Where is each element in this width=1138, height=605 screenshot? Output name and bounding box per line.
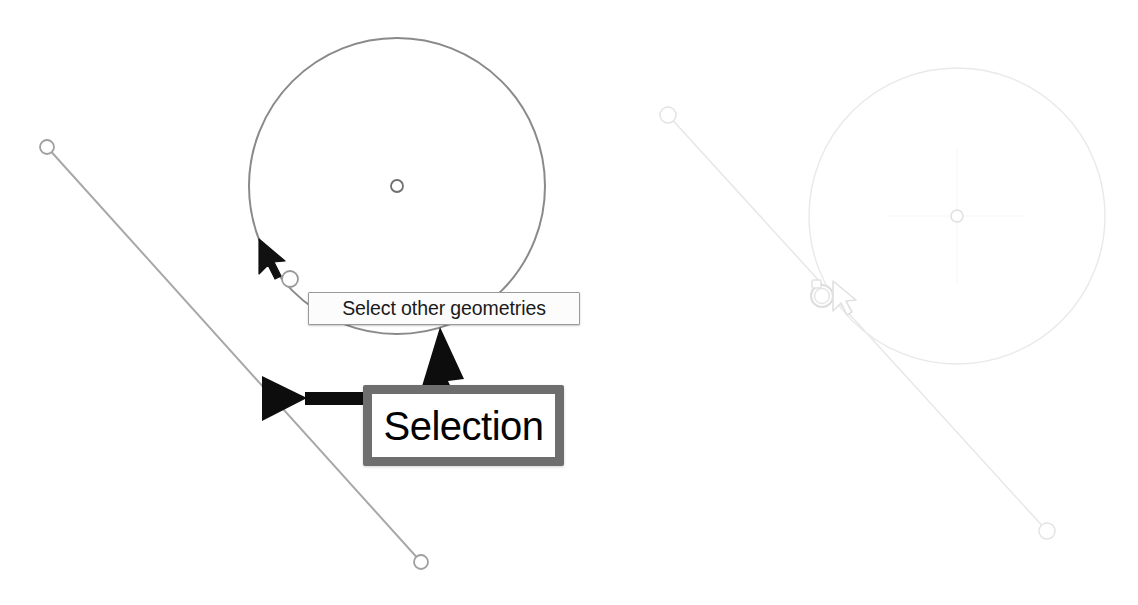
select-other-cursor	[259, 239, 285, 279]
selection-callout-box: Selection	[363, 385, 564, 466]
ghost-sketch-line[interactable]	[668, 115, 1047, 531]
ghost-line-start-vertex[interactable]	[660, 107, 676, 123]
line-start-vertex[interactable]	[40, 140, 54, 154]
ghost-circle-center-vertex[interactable]	[951, 210, 963, 222]
ghost-line-end-vertex[interactable]	[1039, 523, 1055, 539]
line-end-vertex[interactable]	[414, 555, 428, 569]
left-arrow-to-line	[262, 376, 367, 421]
circle-center-vertex[interactable]	[391, 180, 403, 192]
ghost-sketch-panel	[660, 68, 1105, 539]
sketch-canvas: Select other geometries Selection	[0, 0, 1138, 605]
tooltip-label: Select other geometries	[342, 299, 546, 319]
intersection-vertex[interactable]	[282, 271, 298, 287]
selection-callout-label: Selection	[383, 406, 543, 446]
select-other-geometries-tooltip[interactable]: Select other geometries	[308, 292, 580, 325]
sketch-line[interactable]	[47, 147, 421, 562]
